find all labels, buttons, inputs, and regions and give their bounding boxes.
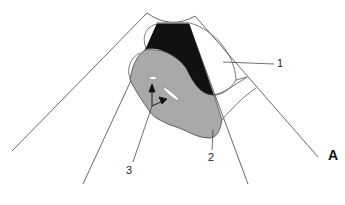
panel-label: A [328,148,338,162]
label-3: 3 [126,165,132,176]
small-lumen [150,76,157,80]
leader-3 [133,106,152,162]
diagram-figure [0,0,345,205]
outer-fan-top-arc [147,13,195,22]
outer-fan-left-edge [12,13,147,151]
label-1: 1 [277,58,283,69]
gray-region [130,50,222,138]
leader-1 [223,62,274,64]
label-2: 2 [208,152,214,163]
